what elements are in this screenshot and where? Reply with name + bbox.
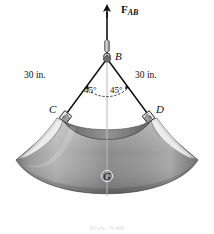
label-point-b: B xyxy=(115,51,122,62)
label-angle-right: 45° xyxy=(110,86,123,95)
turnbuckle-sleeve xyxy=(105,40,110,52)
label-point-g: G xyxy=(103,171,111,182)
label-angle-left: 45° xyxy=(84,86,97,95)
shackle-at-b xyxy=(103,53,111,62)
figure-container: FAB B 30 in. 30 in. 45° 45° C D G Prob. … xyxy=(0,0,214,234)
mechanics-diagram xyxy=(0,0,214,234)
force-subscript: AB xyxy=(128,8,139,17)
label-force-FAB: FAB xyxy=(121,4,138,17)
label-dim-right: 30 in. xyxy=(135,71,157,81)
label-point-d: D xyxy=(156,104,164,115)
force-symbol: F xyxy=(121,3,128,15)
label-point-c: C xyxy=(49,104,56,115)
label-dim-left: 30 in. xyxy=(24,71,46,81)
cable-ab-assembly xyxy=(105,8,110,54)
figure-caption: Prob. 3-68 xyxy=(0,224,214,232)
